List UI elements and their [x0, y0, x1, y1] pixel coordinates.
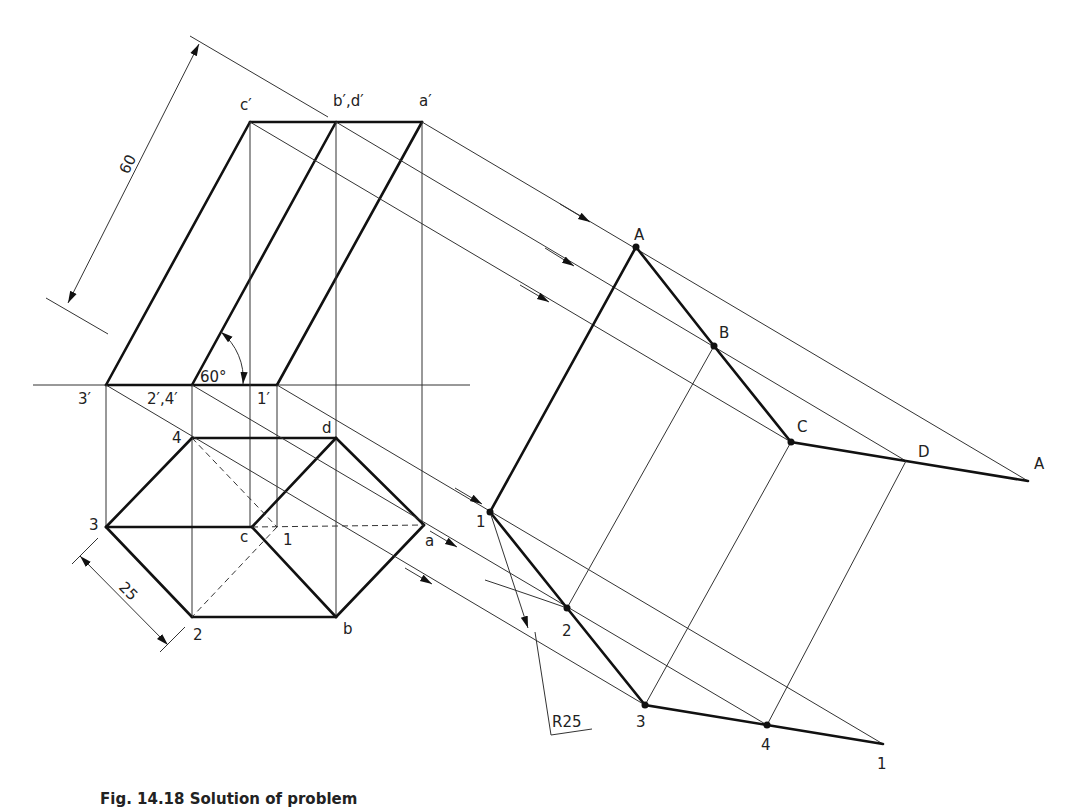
label-b: b [343, 620, 353, 638]
side-dimension-line [80, 556, 168, 645]
extension-25-b [160, 627, 185, 652]
point-1 [487, 509, 494, 516]
projection-lines [106, 122, 1028, 744]
label-2-dev: 2 [562, 622, 572, 640]
height-dimension-line [68, 44, 199, 303]
label-B: B [719, 324, 729, 342]
generator-1-a [277, 122, 422, 385]
label-C: C [797, 418, 807, 436]
point-B [711, 343, 718, 350]
label-3-dev: 3 [636, 713, 646, 731]
extension-line-top [190, 36, 328, 117]
label-d: d [322, 419, 332, 437]
development-view: R25 A B C D A 1 2 3 4 1 [476, 226, 1045, 773]
projector-3-3 [106, 385, 645, 705]
label-A-top: A [634, 226, 645, 244]
point-A [633, 244, 640, 251]
label-c-prime: c′ [240, 96, 252, 114]
arrow-3 [520, 285, 549, 302]
extension-25-a [72, 538, 98, 564]
label-2: 2 [193, 626, 203, 644]
point-2 [564, 605, 571, 612]
label-3-prime: 3′ [78, 390, 92, 408]
label-c: c [240, 528, 248, 546]
arrow-1 [560, 204, 590, 222]
point-4 [764, 722, 771, 729]
extension-line-bottom [46, 298, 108, 334]
label-D: D [918, 443, 930, 461]
projector-c-C [250, 122, 791, 442]
projector-a-A [422, 122, 1028, 481]
figure-caption: Fig. 14.18 Solution of problem [100, 790, 357, 808]
label-a: a [425, 532, 434, 550]
side-dimension-label: 25 [115, 578, 141, 604]
height-dimension-label: 60 [116, 152, 141, 177]
hidden-c-a [252, 525, 424, 527]
label-1-start: 1 [476, 513, 486, 531]
label-4: 4 [172, 429, 182, 447]
label-1: 1 [283, 531, 293, 549]
label-3: 3 [89, 516, 99, 534]
radius-label: R25 [552, 713, 582, 731]
generator-A-1 [490, 247, 636, 512]
hidden-4-1 [192, 438, 277, 527]
edge-3-4 [106, 438, 192, 527]
edge-3-2 [106, 527, 192, 617]
fold-C-3 [645, 442, 791, 705]
arrow-4 [455, 488, 482, 504]
point-3 [642, 702, 649, 709]
edge-d-a [336, 438, 424, 525]
label-a-prime: a′ [419, 92, 432, 110]
label-24-prime: 2′,4′ [147, 390, 178, 408]
plan-view: 25 4 d 3 c 1 a 2 b [72, 419, 434, 652]
label-1-prime: 1′ [257, 390, 271, 408]
generator-24-bd [192, 122, 336, 385]
radius-arrow [490, 512, 528, 628]
label-1-end: 1 [877, 755, 887, 773]
edge-c-b [252, 527, 336, 617]
label-4-dev: 4 [761, 736, 771, 754]
point-C [788, 439, 795, 446]
angle-label: 60° [200, 368, 227, 386]
arrow-2 [545, 248, 574, 266]
label-A-end: A [1034, 455, 1045, 473]
label-bd-prime: b′,d′ [333, 92, 364, 110]
fold-D-4 [767, 461, 906, 725]
fold-B-2 [567, 346, 714, 608]
